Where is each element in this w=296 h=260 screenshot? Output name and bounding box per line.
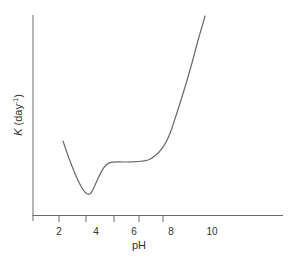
x-axis-label: pH (132, 239, 146, 251)
x-tick-label: 4 (93, 226, 99, 237)
k-vs-ph-curve (63, 16, 205, 194)
x-tick-label: 10 (206, 226, 218, 237)
y-axis-label: K (day-1) (12, 94, 24, 136)
x-tick-label: 8 (168, 226, 174, 237)
chart: 2 4 6 8 10 pH K (day-1) (0, 0, 296, 260)
x-tick-label: 6 (131, 226, 137, 237)
x-ticks (59, 215, 163, 222)
x-tick-label: 2 (56, 226, 62, 237)
